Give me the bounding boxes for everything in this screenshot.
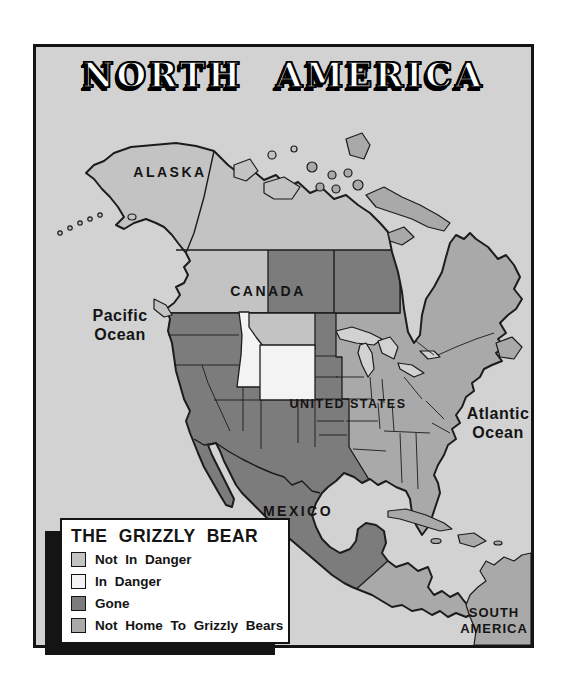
legend-label-not-in-danger: Not In Danger	[95, 552, 192, 567]
label-alaska: ALASKA	[133, 164, 206, 180]
arctic-island-small-6	[353, 180, 363, 190]
legend-box: THE GRIZZLY BEAR Not In Danger In Danger…	[60, 518, 290, 644]
arctic-island-small-8	[316, 183, 324, 191]
legend-item-gone: Gone	[71, 596, 288, 611]
arctic-island-small-3	[307, 162, 317, 172]
arctic-island-small-1	[268, 151, 276, 159]
jamaica-island	[431, 539, 441, 544]
aleutian-island-3	[78, 221, 82, 225]
label-south-america-line2: AMERICA	[460, 621, 528, 636]
legend-title: THE GRIZZLY BEAR	[71, 526, 288, 547]
swatch-not-in-danger	[71, 552, 86, 567]
swatch-gone	[71, 596, 86, 611]
region-wyoming-in-danger	[260, 345, 315, 400]
hispaniola-island	[458, 533, 486, 547]
kodiak-island	[128, 214, 136, 220]
legend-item-in-danger: In Danger	[71, 574, 288, 589]
aleutian-island-4	[88, 217, 92, 221]
map-title: NORTH AMERICA	[36, 55, 531, 95]
label-south-america-line1: SOUTH	[469, 605, 520, 620]
label-atlantic-ocean-line1: Atlantic	[467, 405, 530, 422]
legend-label-in-danger: In Danger	[95, 574, 161, 589]
swatch-in-danger	[71, 574, 86, 589]
legend-item-not-home: Not Home To Grizzly Bears	[71, 618, 288, 633]
arctic-island-small-7	[332, 185, 340, 193]
label-pacific-ocean-line2: Ocean	[94, 326, 145, 343]
map-frame: NORTH AMERICA	[33, 44, 534, 648]
label-pacific-ocean-line1: Pacific	[92, 307, 147, 324]
legend-label-gone: Gone	[95, 596, 130, 611]
southampton-island	[388, 227, 414, 245]
page: { "title": "NORTH AMERICA", "colors": { …	[0, 0, 567, 689]
label-atlantic-ocean-line2: Ocean	[472, 424, 523, 441]
label-united-states: UNITED STATES	[290, 397, 407, 411]
arctic-island-small-4	[328, 171, 336, 179]
legend-item-not-in-danger: Not In Danger	[71, 552, 288, 567]
puerto-rico-island	[494, 541, 502, 545]
aleutian-island-1	[58, 231, 62, 235]
aleutian-island-2	[68, 226, 72, 230]
legend-label-not-home: Not Home To Grizzly Bears	[95, 618, 283, 633]
label-mexico: MEXICO	[263, 503, 333, 519]
aleutian-island-5	[98, 213, 102, 217]
ellesmere-island	[346, 133, 370, 159]
swatch-not-home	[71, 618, 86, 633]
label-canada: CANADA	[230, 283, 306, 299]
arctic-island-small-2	[291, 146, 297, 152]
arctic-island-small-5	[344, 169, 352, 177]
